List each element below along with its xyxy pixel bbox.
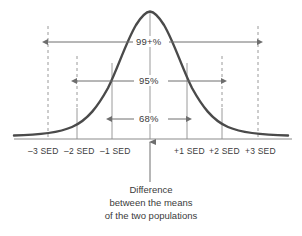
band-label-99-percent: 99+% <box>133 36 164 47</box>
caption-line-3: of the two populations <box>0 209 302 222</box>
caption-line-2: between the means <box>0 196 302 209</box>
band-label-68-percent: 68% <box>136 113 162 124</box>
band-label-95-percent: 95% <box>136 75 162 86</box>
caption-line-1: Difference <box>0 183 302 196</box>
axis-tick-label-plus-1-sed: +1 SED <box>174 146 205 157</box>
axis-tick-label-plus-3-sed: +3 SED <box>245 146 276 157</box>
axis-tick-label-minus-3-sed: –3 SED <box>28 146 59 157</box>
axis-tick-label-minus-2-sed: –2 SED <box>64 146 95 157</box>
axis-tick-label-plus-2-sed: +2 SED <box>209 146 240 157</box>
axis-tick-label-minus-1-sed: –1 SED <box>100 146 131 157</box>
normal-distribution-figure: 99+% 95% 68% –3 SED –2 SED –1 SED +1 SED… <box>0 0 302 236</box>
figure-caption: Difference between the means of the two … <box>0 183 302 222</box>
